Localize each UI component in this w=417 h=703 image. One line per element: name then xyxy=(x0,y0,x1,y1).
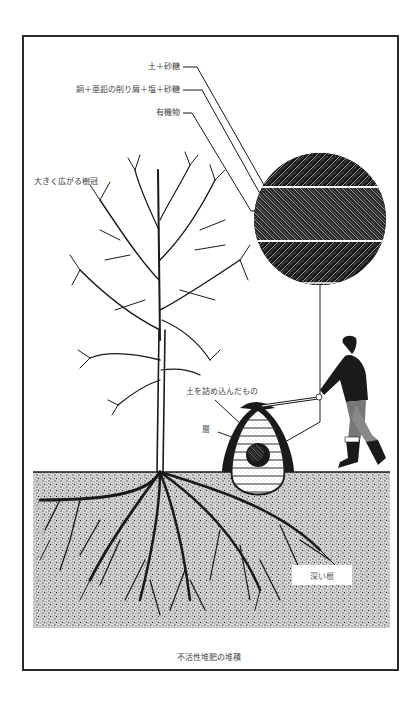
label-packed-soil: 土を詰め込んだもの xyxy=(186,387,258,397)
soil-cross-section xyxy=(33,472,390,628)
magnified-layers-circle xyxy=(254,153,386,287)
figure-caption: 不活性堆肥の堆積 xyxy=(0,651,417,662)
tree xyxy=(70,152,250,472)
label-organic-matter: 有機物 xyxy=(100,108,180,118)
label-tree-crown: 大きく広がる樹冠 xyxy=(34,177,98,187)
label-soil-sugar: 土＋砂糖 xyxy=(100,62,180,72)
label-layers: 層 xyxy=(202,425,210,435)
gardener-figure xyxy=(316,336,386,468)
label-metal-shavings: 銅＋亜鉛の削り屑＋塩＋砂糖 xyxy=(30,85,180,95)
deep-roots-text: 深い根 xyxy=(310,570,334,581)
label-deep-roots: 深い根 xyxy=(292,565,352,585)
illustration xyxy=(0,0,417,703)
compost-heap xyxy=(222,405,294,495)
compost-tool xyxy=(240,398,318,410)
